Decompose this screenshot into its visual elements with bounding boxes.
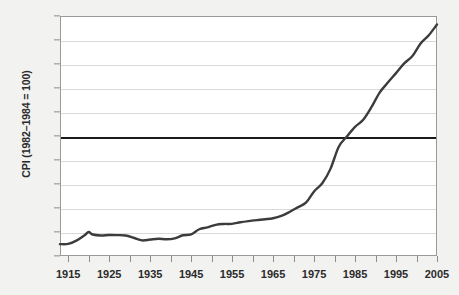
x-tick-label-1975: 1975	[291, 268, 337, 280]
x-tick-mark-1940	[171, 256, 172, 262]
x-tick-mark-1915	[68, 256, 69, 262]
y-tick-mark-160	[54, 63, 60, 64]
x-tick-mark-1925	[109, 256, 110, 262]
x-tick-mark-1955	[232, 256, 233, 262]
gridline-y-60	[61, 185, 436, 186]
gridline-y-160	[61, 65, 436, 66]
x-tick-mark-2005	[437, 256, 438, 262]
x-tick-label-1935: 1935	[127, 268, 173, 280]
gridline-y-20	[61, 233, 436, 234]
x-tick-label-1995: 1995	[373, 268, 419, 280]
x-tick-label-1985: 1985	[332, 268, 378, 280]
cpi-line-chart: CPI (1982–1984 = 100) 020406080100120140…	[0, 0, 459, 295]
x-tick-mark-1950	[212, 256, 213, 262]
gridline-y-80	[61, 161, 436, 162]
x-tick-mark-1980	[335, 256, 336, 262]
y-tick-mark-60	[54, 183, 60, 184]
x-tick-mark-1985	[355, 256, 356, 262]
plot-area	[60, 16, 437, 256]
x-tick-mark-1970	[294, 256, 295, 262]
x-tick-mark-1965	[273, 256, 274, 262]
y-tick-mark-180	[54, 39, 60, 40]
gridline-y-100	[61, 137, 436, 139]
x-tick-mark-1995	[396, 256, 397, 262]
x-tick-mark-1960	[253, 256, 254, 262]
gridline-y-120	[61, 113, 436, 114]
x-tick-mark-2000	[417, 256, 418, 262]
x-tick-label-1915: 1915	[45, 268, 91, 280]
y-tick-mark-200	[54, 15, 60, 16]
x-tick-label-2005: 2005	[414, 268, 459, 280]
gridline-y-180	[61, 41, 436, 42]
x-tick-mark-1975	[314, 256, 315, 262]
y-tick-mark-0	[54, 255, 60, 256]
x-tick-mark-1990	[376, 256, 377, 262]
x-tick-label-1965: 1965	[250, 268, 296, 280]
y-tick-mark-120	[54, 111, 60, 112]
y-tick-mark-140	[54, 87, 60, 88]
gridline-y-140	[61, 89, 436, 90]
y-tick-mark-40	[54, 207, 60, 208]
x-tick-label-1945: 1945	[168, 268, 214, 280]
y-tick-mark-80	[54, 159, 60, 160]
gridline-y-40	[61, 209, 436, 210]
x-tick-mark-1945	[191, 256, 192, 262]
y-tick-mark-20	[54, 231, 60, 232]
x-tick-mark-1920	[89, 256, 90, 262]
x-tick-label-1955: 1955	[209, 268, 255, 280]
x-tick-mark-1935	[150, 256, 151, 262]
x-tick-label-1925: 1925	[86, 268, 132, 280]
x-tick-mark-1930	[130, 256, 131, 262]
y-tick-mark-100	[54, 135, 60, 136]
y-axis-title: CPI (1982–1984 = 100)	[20, 54, 32, 194]
